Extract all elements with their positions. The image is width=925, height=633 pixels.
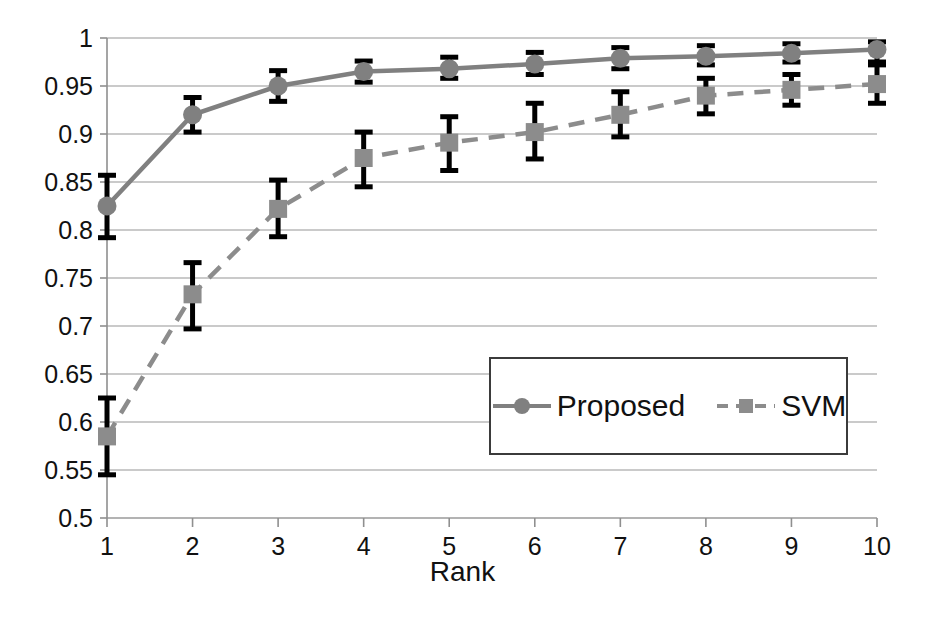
y-tick-label: 0.6: [58, 408, 93, 437]
marker-point-svm: [697, 87, 715, 105]
y-tick-label: 0.75: [44, 264, 93, 293]
y-tick-label: 1: [79, 24, 93, 53]
y-tick-label: 0.7: [58, 312, 93, 341]
marker-point-proposed: [183, 105, 202, 124]
marker-point-proposed: [696, 47, 715, 66]
chart-figure: 0.50.550.60.650.70.750.80.850.90.951 123…: [0, 0, 925, 633]
marker-point-svm: [269, 200, 287, 218]
y-tick-label: 0.55: [44, 456, 93, 485]
marker-point-proposed: [611, 49, 630, 68]
marker-point-svm: [611, 106, 629, 124]
legend: Proposed SVM: [489, 357, 848, 455]
legend-item-svm: SVM: [715, 389, 846, 423]
y-tick-label: 0.85: [44, 168, 93, 197]
marker-point-proposed: [868, 40, 887, 59]
legend-swatch-dashed-square-icon: [715, 395, 777, 417]
marker-point-proposed: [354, 62, 373, 81]
y-tick-label: 0.9: [58, 120, 93, 149]
x-axis-title: Rank: [0, 556, 925, 588]
y-tick-label: 0.5: [58, 504, 93, 533]
marker-point-svm: [868, 75, 886, 93]
marker-point-svm: [98, 427, 116, 445]
marker-point-proposed: [98, 197, 117, 216]
marker-point-svm: [440, 134, 458, 152]
legend-label-proposed: Proposed: [557, 389, 685, 423]
marker-point-proposed: [269, 77, 288, 96]
y-tick-label: 0.65: [44, 360, 93, 389]
marker-point-proposed: [525, 54, 544, 73]
legend-items: Proposed SVM: [491, 359, 846, 453]
marker-point-svm: [782, 81, 800, 99]
marker-point-proposed: [440, 59, 459, 78]
legend-item-proposed: Proposed: [491, 389, 685, 423]
legend-swatch-solid-circle-icon: [491, 395, 553, 417]
marker-point-svm: [355, 149, 373, 167]
marker-point-proposed: [782, 44, 801, 63]
marker-point-svm: [526, 123, 544, 141]
y-tick-label: 0.95: [44, 72, 93, 101]
legend-label-svm: SVM: [781, 389, 846, 423]
marker-point-svm: [184, 285, 202, 303]
y-tick-label: 0.8: [58, 216, 93, 245]
